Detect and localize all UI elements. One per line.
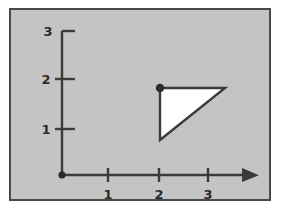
figure-root: 3 2 1 1 2 3 xyxy=(0,0,283,212)
y-axis-tick-label-3: 3 xyxy=(43,24,52,39)
y-axis-group: 3 2 1 xyxy=(41,24,75,175)
origin-marker-dot-icon xyxy=(58,171,65,178)
x-axis-tick-label-2: 2 xyxy=(154,187,163,199)
right-triangle-shape xyxy=(156,84,225,140)
x-axis-tick-label-3: 3 xyxy=(203,187,212,199)
triangle-apex-marker-dot-icon xyxy=(156,84,164,92)
x-axis-tick-label-1: 1 xyxy=(103,187,112,199)
plot-canvas: 3 2 1 1 2 3 xyxy=(11,10,269,199)
x-axis-group: 1 2 3 xyxy=(62,168,259,199)
plot-frame: 3 2 1 1 2 3 xyxy=(9,8,271,201)
x-axis-arrowhead-icon xyxy=(242,168,259,182)
right-triangle-polygon xyxy=(160,88,225,140)
y-axis-tick-label-2: 2 xyxy=(41,72,50,87)
y-axis-tick-label-1: 1 xyxy=(41,122,50,137)
